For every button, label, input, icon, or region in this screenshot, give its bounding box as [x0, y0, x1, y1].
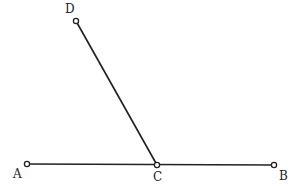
- label-d: D: [65, 2, 75, 16]
- label-c: C: [153, 170, 162, 184]
- label-a: A: [12, 167, 22, 181]
- point-b: [271, 162, 276, 167]
- point-c: [154, 162, 159, 167]
- geometry-diagram: A B C D: [0, 0, 291, 186]
- point-d: [73, 18, 78, 23]
- segment-ab: [27, 164, 274, 165]
- segment-cd: [76, 21, 157, 165]
- label-b: B: [279, 169, 288, 183]
- point-a: [24, 161, 29, 166]
